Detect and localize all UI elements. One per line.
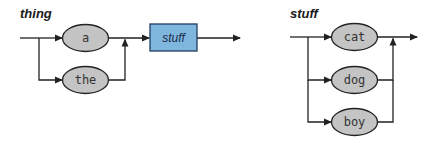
diagram-stuff: stuff cat dog boy [290, 6, 417, 136]
terminal-the-label: the [75, 73, 97, 87]
terminal-boy-label: boy [344, 115, 366, 129]
terminal-the: the [63, 67, 109, 94]
nonterminal-stuff: stuff [150, 24, 197, 51]
terminal-cat-label: cat [344, 30, 366, 44]
syntax-diagrams: thing a the stuff stuff [0, 0, 439, 143]
merge-arrow [378, 39, 394, 81]
merge-arrow [109, 40, 126, 81]
arrow-to-boy [308, 80, 331, 122]
diagram-title-thing: thing [20, 6, 52, 21]
arrow-to-dog [308, 37, 331, 80]
terminal-dog-label: dog [344, 73, 366, 87]
diagram-title-stuff: stuff [290, 6, 320, 21]
terminal-a: a [63, 25, 109, 52]
terminal-boy: boy [332, 109, 378, 136]
arrow-to-the [39, 38, 62, 80]
terminal-a-label: a [82, 31, 89, 45]
merge-line-boy [378, 80, 394, 122]
diagram-thing: thing a the stuff [20, 6, 240, 94]
terminal-cat: cat [332, 24, 378, 51]
nonterminal-stuff-label: stuff [162, 31, 186, 45]
terminal-dog: dog [332, 67, 378, 94]
